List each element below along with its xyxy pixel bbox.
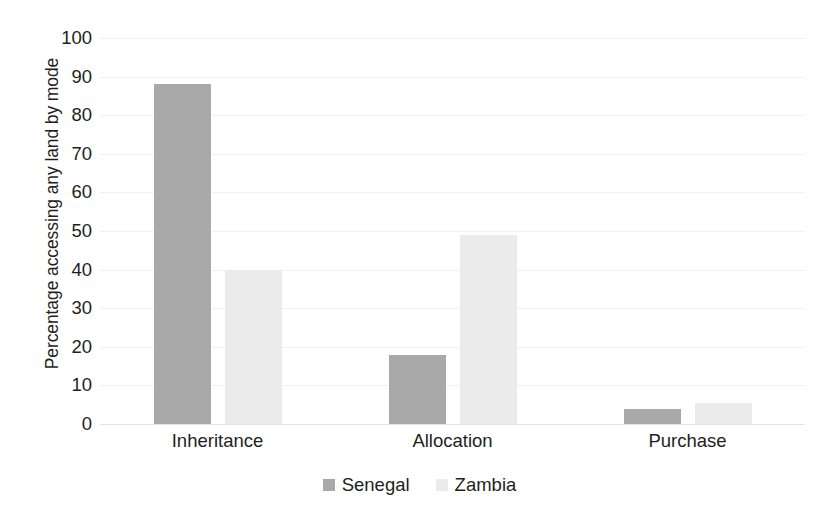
bar-zambia-allocation — [460, 235, 517, 424]
y-tick-label-100: 100 — [20, 29, 92, 48]
chart-legend: SenegalZambia — [0, 476, 839, 495]
legend-label-senegal: Senegal — [342, 476, 410, 495]
y-tick-label-50: 50 — [20, 222, 92, 241]
y-tick-label-70: 70 — [20, 145, 92, 164]
x-tick-label-allocation: Allocation — [412, 432, 492, 451]
x-tick-label-inheritance: Inheritance — [172, 432, 264, 451]
gridline-100 — [100, 38, 805, 39]
y-tick-label-10: 10 — [20, 376, 92, 395]
legend-item-senegal[interactable]: Senegal — [323, 476, 410, 495]
x-tick-label-purchase: Purchase — [648, 432, 726, 451]
gridline-90 — [100, 77, 805, 78]
legend-label-zambia: Zambia — [455, 476, 517, 495]
gridline-0 — [100, 424, 805, 425]
plot-area — [100, 38, 805, 424]
y-tick-label-90: 90 — [20, 67, 92, 86]
zambia-swatch — [436, 479, 448, 491]
y-tick-label-40: 40 — [20, 260, 92, 279]
bar-senegal-purchase — [624, 409, 681, 424]
bar-zambia-inheritance — [225, 270, 282, 424]
y-tick-label-30: 30 — [20, 299, 92, 318]
bar-chart-figure: Percentage accessing any land by mode 10… — [0, 0, 839, 520]
legend-item-zambia[interactable]: Zambia — [436, 476, 517, 495]
bar-zambia-purchase — [695, 403, 752, 424]
bar-senegal-inheritance — [154, 84, 211, 424]
bar-senegal-allocation — [389, 355, 446, 424]
y-tick-label-60: 60 — [20, 183, 92, 202]
y-tick-label-80: 80 — [20, 106, 92, 125]
senegal-swatch — [323, 479, 335, 491]
y-tick-label-20: 20 — [20, 338, 92, 357]
y-tick-label-0: 0 — [20, 415, 92, 434]
